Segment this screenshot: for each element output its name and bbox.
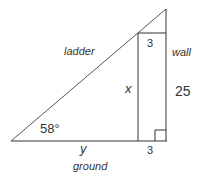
top-width-label: 3	[147, 38, 153, 49]
wall-height-label: 25	[175, 84, 191, 98]
y-label: y	[80, 142, 87, 155]
angle-label: 58°	[40, 122, 60, 135]
ground-label: ground	[73, 161, 107, 172]
wall-label: wall	[172, 47, 191, 58]
x-label: x	[125, 82, 132, 95]
ladder-line	[11, 9, 166, 141]
bottom-width-label: 3	[147, 145, 153, 156]
right-angle-marker	[155, 130, 166, 141]
ladder-wall-diagram	[0, 0, 201, 183]
ladder-label: ladder	[64, 46, 95, 57]
